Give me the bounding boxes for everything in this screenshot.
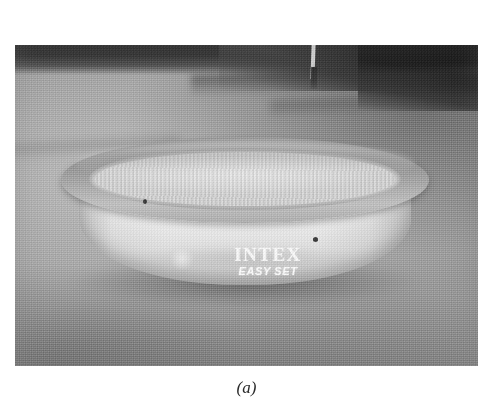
wall-spot-right xyxy=(313,237,318,242)
wall-spot-left xyxy=(143,199,147,204)
brand-name-text: INTEX xyxy=(203,245,333,264)
brand-model-text: EASY SET xyxy=(203,266,333,277)
pool-secondary-marking xyxy=(165,243,199,275)
background-post-base xyxy=(311,67,317,89)
pool-water-far-shading xyxy=(105,151,387,171)
figure-caption: (a) xyxy=(0,378,493,398)
figure-panel-a: INTEX EASY SET (a) xyxy=(0,0,493,415)
pool-brand-logo: INTEX EASY SET xyxy=(203,245,333,277)
photograph: INTEX EASY SET xyxy=(15,45,478,366)
inflatable-pool: INTEX EASY SET xyxy=(61,137,429,305)
